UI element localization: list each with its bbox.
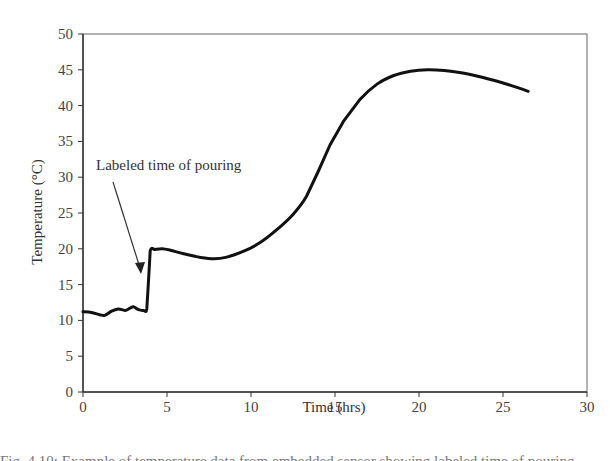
data-series xyxy=(83,70,528,316)
annotation-arrow-line xyxy=(113,182,140,268)
annotation: Labeled time of pouring xyxy=(96,157,242,274)
y-tick-label: 20 xyxy=(58,241,73,257)
temperature-line xyxy=(83,70,528,316)
annotation-text: Labeled time of pouring xyxy=(96,157,242,173)
temperature-chart: 05101520253035404550 051015202530 Labele… xyxy=(0,0,615,461)
figure-caption: Fig. 4.10: Example of temperature data f… xyxy=(0,452,615,461)
y-tick-label: 0 xyxy=(66,384,74,400)
y-axis: 05101520253035404550 xyxy=(58,26,83,400)
x-tick-label: 20 xyxy=(412,399,427,415)
y-tick-label: 30 xyxy=(58,169,73,185)
y-tick-label: 15 xyxy=(58,277,73,293)
y-tick-label: 10 xyxy=(58,312,73,328)
y-tick-label: 50 xyxy=(58,26,73,42)
x-tick-label: 25 xyxy=(496,399,511,415)
plot-area xyxy=(83,34,587,392)
y-tick-label: 25 xyxy=(58,205,73,221)
x-tick-label: 10 xyxy=(244,399,259,415)
y-axis-title: Temperature (°C) xyxy=(29,159,46,264)
y-tick-label: 35 xyxy=(58,133,73,149)
y-tick-label: 40 xyxy=(58,98,73,114)
y-tick-label: 45 xyxy=(58,62,73,78)
x-tick-label: 30 xyxy=(580,399,595,415)
y-tick-label: 5 xyxy=(66,348,74,364)
plot-border xyxy=(83,34,587,392)
x-tick-label: 5 xyxy=(163,399,171,415)
x-axis-title: Time (hrs) xyxy=(302,399,365,416)
x-tick-label: 0 xyxy=(79,399,87,415)
arrow-head-icon xyxy=(135,262,145,274)
